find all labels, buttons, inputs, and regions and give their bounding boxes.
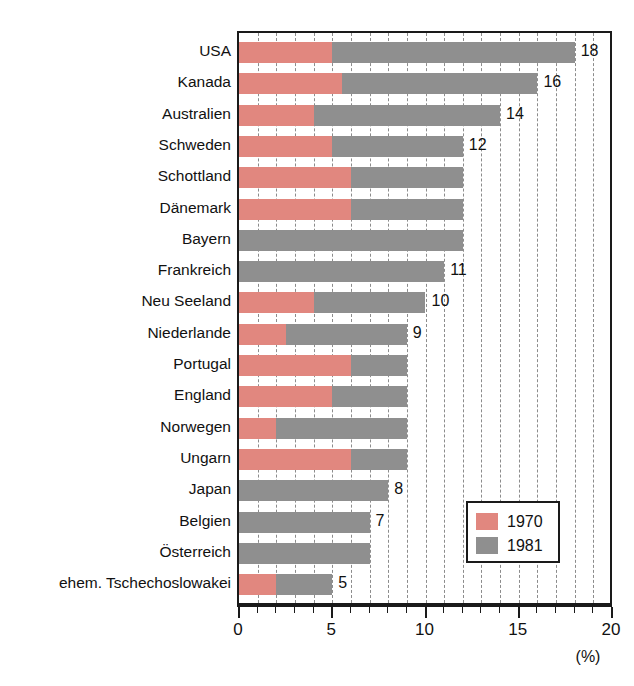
x-axis-unit-label: (%) bbox=[576, 648, 601, 666]
bar-segment-1981 bbox=[332, 136, 463, 157]
x-tick-label: 5 bbox=[327, 620, 336, 640]
x-tick-major bbox=[238, 607, 240, 618]
x-tick-label: 10 bbox=[415, 620, 434, 640]
bar-segment-1970 bbox=[239, 136, 332, 157]
x-tick-minor bbox=[257, 607, 258, 613]
legend-label-1970: 1970 bbox=[507, 513, 543, 530]
bar-row bbox=[239, 42, 575, 63]
x-tick-label: 15 bbox=[508, 620, 527, 640]
bar-segment-1970 bbox=[239, 167, 351, 188]
category-label: Dänemark bbox=[160, 197, 232, 218]
x-tick-minor bbox=[294, 607, 295, 613]
bar-chart: USAKanadaAustralienSchwedenSchottlandDän… bbox=[0, 0, 634, 686]
x-tick-minor bbox=[313, 607, 314, 613]
bar-segment-1981 bbox=[314, 292, 426, 313]
bar-segment-1981 bbox=[239, 512, 370, 533]
category-label: Frankreich bbox=[158, 259, 231, 280]
bar-row bbox=[239, 167, 463, 188]
category-label: ehem. Tschechoslowakei bbox=[59, 572, 231, 593]
bar-segment-1981 bbox=[239, 543, 370, 564]
bar-value-label: 14 bbox=[506, 103, 524, 124]
bar-segment-1981 bbox=[351, 355, 407, 376]
bar-segment-1970 bbox=[239, 292, 314, 313]
bar-row bbox=[239, 386, 407, 407]
category-label: Österreich bbox=[160, 541, 232, 562]
bar-row bbox=[239, 105, 500, 126]
x-axis: 05101520 bbox=[237, 605, 612, 608]
legend-label-1981: 1981 bbox=[507, 537, 543, 554]
bar-segment-1981 bbox=[276, 574, 332, 595]
category-label: Neu Seeland bbox=[141, 290, 231, 311]
category-label: Belgien bbox=[179, 510, 231, 531]
bar-segment-1981 bbox=[239, 230, 463, 251]
category-label: Ungarn bbox=[180, 447, 231, 468]
bar-segment-1970 bbox=[239, 418, 276, 439]
bar-segment-1981 bbox=[351, 199, 463, 220]
legend-swatch-1970 bbox=[476, 513, 498, 530]
bar-segment-1970 bbox=[239, 105, 314, 126]
legend: 1970 1981 bbox=[466, 501, 560, 563]
legend-item-1970: 1970 bbox=[476, 509, 558, 533]
bar-segment-1981 bbox=[351, 449, 407, 470]
x-tick-minor bbox=[443, 607, 444, 613]
legend-item-1981: 1981 bbox=[476, 533, 558, 557]
category-label: Norwegen bbox=[160, 416, 231, 437]
bar-segment-1981 bbox=[332, 42, 574, 63]
category-label: Kanada bbox=[178, 71, 231, 92]
bar-row bbox=[239, 543, 370, 564]
category-label: Schweden bbox=[159, 134, 231, 155]
bar-segment-1981 bbox=[286, 324, 407, 345]
bar-segment-1970 bbox=[239, 324, 286, 345]
bar-segment-1970 bbox=[239, 199, 351, 220]
bar-segment-1981 bbox=[239, 480, 388, 501]
category-label: Bayern bbox=[182, 228, 231, 249]
bar-segment-1970 bbox=[239, 386, 332, 407]
bar-row bbox=[239, 324, 407, 345]
bar-row bbox=[239, 355, 407, 376]
category-label: Schottland bbox=[158, 165, 231, 186]
x-tick-major bbox=[331, 607, 333, 618]
bar-segment-1981 bbox=[342, 73, 538, 94]
bar-segment-1981 bbox=[314, 105, 501, 126]
category-label: Portugal bbox=[173, 353, 231, 374]
bar-value-label: 11 bbox=[450, 259, 467, 280]
x-tick-major bbox=[518, 607, 520, 618]
bar-value-label: 18 bbox=[581, 40, 599, 61]
bar-row bbox=[239, 73, 537, 94]
x-tick-minor bbox=[350, 607, 351, 613]
bar-row bbox=[239, 230, 463, 251]
category-label: Niederlande bbox=[147, 322, 231, 343]
bar-value-label: 9 bbox=[413, 322, 422, 343]
bar-segment-1970 bbox=[239, 449, 351, 470]
bar-row bbox=[239, 261, 444, 282]
category-label: USA bbox=[199, 40, 231, 61]
bar-row bbox=[239, 199, 463, 220]
bar-value-label: 7 bbox=[376, 510, 385, 531]
category-label: England bbox=[174, 384, 231, 405]
bar-segment-1981 bbox=[332, 386, 407, 407]
x-tick-minor bbox=[555, 607, 556, 613]
bar-row bbox=[239, 292, 425, 313]
bar-value-label: 12 bbox=[469, 134, 487, 155]
x-tick-label: 20 bbox=[602, 620, 621, 640]
category-label: Japan bbox=[189, 478, 231, 499]
x-tick-label: 0 bbox=[233, 620, 242, 640]
bar-segment-1970 bbox=[239, 42, 332, 63]
legend-swatch-1981 bbox=[476, 537, 498, 554]
x-tick-minor bbox=[462, 607, 463, 613]
bar-segment-1970 bbox=[239, 73, 342, 94]
x-tick-minor bbox=[574, 607, 575, 613]
bar-value-label: 8 bbox=[394, 478, 403, 499]
bar-row bbox=[239, 512, 370, 533]
bar-value-label: 10 bbox=[432, 290, 450, 311]
bar-row bbox=[239, 418, 407, 439]
x-tick-major bbox=[611, 607, 613, 618]
bar-row bbox=[239, 136, 463, 157]
x-tick-major bbox=[425, 607, 427, 618]
bar-row bbox=[239, 574, 332, 595]
category-label: Australien bbox=[162, 103, 231, 124]
bar-segment-1970 bbox=[239, 574, 276, 595]
x-tick-minor bbox=[369, 607, 370, 613]
x-tick-minor bbox=[275, 607, 276, 613]
bar-segment-1970 bbox=[239, 355, 351, 376]
